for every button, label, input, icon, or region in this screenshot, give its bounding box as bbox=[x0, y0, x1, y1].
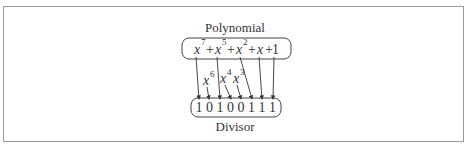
divisor-bits: 1 0 1 0 0 1 1 1 bbox=[196, 100, 277, 115]
bit-5: 1 bbox=[217, 100, 224, 115]
term-x-base: x bbox=[256, 42, 264, 57]
missing-x6-exp: 6 bbox=[210, 69, 215, 79]
op-plus-2: + bbox=[227, 42, 235, 57]
arrow-x2 bbox=[240, 57, 252, 99]
divisor-box bbox=[191, 98, 281, 117]
bit-3: 0 bbox=[238, 100, 245, 115]
missing-x6-base: x bbox=[202, 73, 210, 88]
arrow-x7 bbox=[196, 57, 199, 99]
term-x7-base: x bbox=[193, 42, 201, 57]
term-x2-base: x bbox=[235, 42, 243, 57]
bit-0: 1 bbox=[269, 100, 276, 115]
arrow-x6 bbox=[207, 87, 209, 99]
bit-2: 1 bbox=[248, 100, 255, 115]
missing-terms: x 6 x 4 x 3 bbox=[202, 67, 245, 88]
op-plus-3: + bbox=[248, 42, 256, 57]
term-x5-base: x bbox=[214, 42, 222, 57]
missing-x4-base: x bbox=[219, 71, 227, 86]
term-x2-exp: 2 bbox=[243, 37, 248, 47]
arrow-x4 bbox=[225, 85, 231, 99]
polynomial-divisor-diagram: Polynomial x 7 + x 5 + x 2 + x + 1 x 6 x… bbox=[0, 0, 470, 147]
arrow-x1 bbox=[259, 57, 262, 99]
term-constant: 1 bbox=[272, 42, 279, 57]
missing-x3-base: x bbox=[232, 71, 240, 86]
op-plus-1: + bbox=[206, 42, 214, 57]
divisor-label: Divisor bbox=[216, 119, 256, 134]
arrow-x3 bbox=[237, 85, 241, 99]
bit-6: 0 bbox=[206, 100, 213, 115]
polynomial-expression: x 7 + x 5 + x 2 + x + 1 bbox=[193, 37, 279, 57]
missing-x4-exp: 4 bbox=[227, 67, 232, 77]
bit-7: 1 bbox=[196, 100, 203, 115]
arrow-x0 bbox=[273, 57, 274, 99]
bit-4: 0 bbox=[227, 100, 234, 115]
polynomial-label: Polynomial bbox=[205, 20, 265, 35]
bit-1: 1 bbox=[259, 100, 266, 115]
